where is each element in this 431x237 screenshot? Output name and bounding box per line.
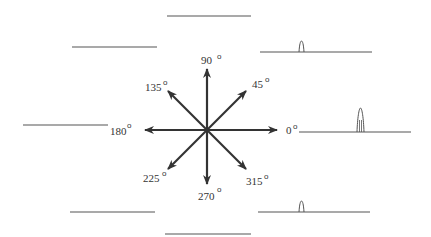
label-0: 0 <box>286 124 292 136</box>
label-315: 315 <box>246 175 263 187</box>
degree-315: o <box>264 172 269 181</box>
label-90: 90 <box>201 54 213 66</box>
degree-90: o <box>217 52 222 61</box>
degree-45: o <box>265 75 270 84</box>
label-135: 135 <box>145 81 162 93</box>
trace-0 <box>299 108 411 132</box>
degree-0: o <box>293 122 298 131</box>
arrow-315 <box>207 130 246 169</box>
label-45: 45 <box>252 78 264 90</box>
label-225: 225 <box>143 172 160 184</box>
degree-225: o <box>162 169 167 178</box>
degree-180: o <box>127 121 132 130</box>
trace-315 <box>258 201 370 212</box>
direction-diagram: 90 o 45 o 135 o 180 o 0 o 225 o 315 o 27… <box>0 0 431 237</box>
spike-large-icon <box>357 108 364 132</box>
arrow-45 <box>207 91 246 130</box>
spike-small-icon <box>299 41 304 52</box>
center-point <box>205 128 209 132</box>
degree-135: o <box>163 78 168 87</box>
label-180: 180 <box>110 125 127 137</box>
label-270: 270 <box>198 190 215 202</box>
trace-45 <box>260 41 372 52</box>
degree-270: o <box>217 185 222 194</box>
arrow-135 <box>168 91 207 130</box>
spike-small-icon <box>299 201 304 212</box>
arrow-225 <box>168 130 207 169</box>
